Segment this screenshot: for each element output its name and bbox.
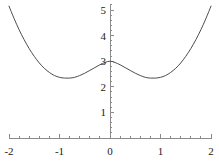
y-tick-label: 5 [94, 5, 106, 16]
x-tick-label: 1 [158, 146, 164, 157]
x-tick-label: -1 [55, 146, 64, 157]
plot-canvas [0, 0, 219, 163]
y-tick-label: 2 [94, 81, 106, 92]
y-tick-label: 4 [94, 30, 106, 41]
x-tick-label: 0 [107, 146, 113, 157]
y-tick-label: 1 [94, 107, 106, 118]
x-tick-label: -2 [4, 146, 13, 157]
x-tick-label: 2 [208, 146, 214, 157]
plot-figure: -2-1012 12345 [0, 0, 219, 163]
y-tick-label: 3 [94, 56, 106, 67]
